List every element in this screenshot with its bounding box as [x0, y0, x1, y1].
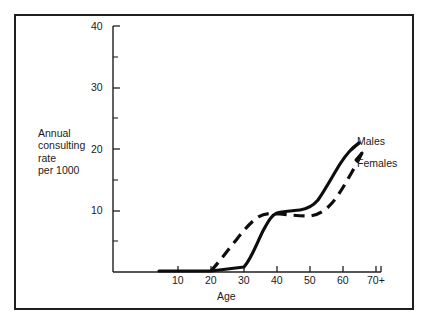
y-axis-title-line-4: per 1000 [38, 164, 85, 176]
x-axis-title: Age [217, 290, 236, 302]
x-tick-label-40: 40 [271, 275, 283, 286]
x-tick-label-60: 60 [337, 275, 349, 286]
x-tick-label-10: 10 [172, 275, 184, 286]
legend-label-females: Females [357, 157, 397, 169]
x-tick-label-30: 30 [238, 275, 250, 286]
y-tick-label-20: 20 [91, 144, 103, 155]
x-tick-label-20: 20 [205, 275, 217, 286]
figure-container: 40 30 20 10 10 20 30 40 50 60 70+ Annual… [0, 0, 429, 328]
y-tick-label-10: 10 [91, 205, 103, 216]
y-axis-title-line-1: Annual [38, 127, 85, 139]
y-axis-title-line-2: consulting [38, 139, 85, 151]
y-axis-title-line-3: rate [38, 152, 85, 164]
y-tick-label-40: 40 [91, 21, 103, 32]
x-tick-label-70-plus: 70+ [367, 275, 385, 286]
y-axis-title: Annual consulting rate per 1000 [38, 127, 85, 177]
y-tick-label-30: 30 [91, 82, 103, 93]
legend-label-males: Males [357, 135, 385, 147]
x-tick-label-50: 50 [304, 275, 316, 286]
